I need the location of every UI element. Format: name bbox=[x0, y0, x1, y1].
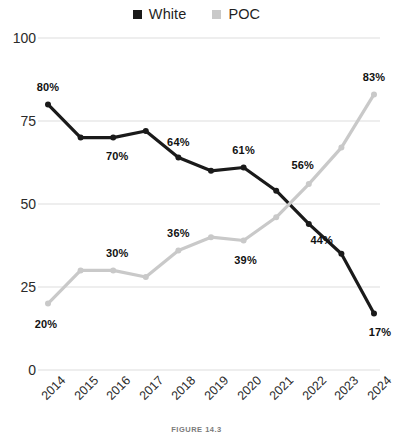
data-point bbox=[338, 145, 344, 151]
data-point-label: 20% bbox=[35, 318, 58, 329]
data-point bbox=[306, 221, 312, 227]
x-tick-label: 2017 bbox=[137, 374, 166, 403]
data-point bbox=[241, 238, 247, 244]
legend-item-white: White bbox=[133, 7, 187, 22]
gridlines bbox=[38, 38, 380, 370]
figure-caption: FIGURE 14.3 bbox=[0, 425, 393, 434]
x-tick-label: 2021 bbox=[268, 374, 297, 403]
x-tick-label: 2018 bbox=[170, 374, 199, 403]
data-point bbox=[110, 267, 116, 273]
data-point bbox=[78, 135, 84, 141]
data-point bbox=[143, 274, 149, 280]
chart-legend: White POC bbox=[0, 4, 393, 24]
data-point bbox=[338, 251, 344, 257]
data-point-label: 64% bbox=[167, 136, 190, 147]
data-point bbox=[78, 267, 84, 273]
square-marker-icon bbox=[133, 10, 142, 19]
data-point bbox=[175, 247, 181, 253]
x-tick-label: 2022 bbox=[300, 374, 329, 403]
data-point-label: 61% bbox=[232, 145, 255, 156]
data-point-label: 39% bbox=[234, 254, 257, 265]
data-point bbox=[143, 128, 149, 134]
data-point bbox=[306, 181, 312, 187]
data-point bbox=[273, 214, 279, 220]
data-point-label: 70% bbox=[106, 150, 129, 161]
x-tick-label: 2016 bbox=[105, 374, 134, 403]
data-point-label: 17% bbox=[369, 326, 392, 337]
x-tick-label: 2019 bbox=[202, 374, 231, 403]
x-tick-label: 2023 bbox=[333, 374, 362, 403]
x-axis: 2014201520162017201820192020202120222023… bbox=[0, 374, 393, 416]
data-point bbox=[45, 301, 51, 307]
x-tick-label: 2015 bbox=[72, 374, 101, 403]
legend-item-poc: POC bbox=[212, 7, 260, 22]
data-point-label: 83% bbox=[363, 72, 386, 83]
data-point bbox=[110, 135, 116, 141]
legend-label-poc: POC bbox=[228, 7, 260, 22]
data-point bbox=[208, 234, 214, 240]
x-tick-label: 2020 bbox=[235, 374, 264, 403]
line-chart: White POC 0255075100 2014201520162017201… bbox=[0, 0, 393, 434]
data-point bbox=[371, 91, 377, 97]
x-tick-label: 2024 bbox=[365, 374, 393, 403]
data-point bbox=[208, 168, 214, 174]
data-point bbox=[175, 155, 181, 161]
plot-area bbox=[0, 26, 393, 378]
data-point-label: 80% bbox=[37, 82, 60, 93]
series-line-white bbox=[48, 104, 374, 313]
data-point bbox=[371, 311, 377, 317]
data-point-label: 36% bbox=[167, 228, 190, 239]
data-point-label: 44% bbox=[310, 234, 333, 245]
data-point bbox=[273, 188, 279, 194]
x-tick-label: 2014 bbox=[39, 374, 68, 403]
series-line-poc bbox=[48, 94, 374, 303]
square-marker-icon bbox=[212, 10, 221, 19]
data-point bbox=[241, 164, 247, 170]
data-point bbox=[45, 101, 51, 107]
data-point-label: 30% bbox=[106, 248, 129, 259]
plot-svg bbox=[0, 26, 393, 378]
data-point-label: 56% bbox=[291, 160, 314, 171]
legend-label-white: White bbox=[149, 7, 187, 22]
